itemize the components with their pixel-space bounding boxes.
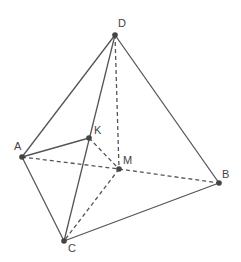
edge-AC (22, 157, 64, 241)
label-C: C (68, 242, 76, 254)
label-K: K (94, 124, 102, 136)
label-A: A (14, 140, 22, 152)
vertex-C (61, 238, 67, 244)
vertex-labels: DAKMBC (14, 17, 229, 254)
edge-MB (119, 169, 219, 183)
label-D: D (118, 17, 126, 29)
edge-AM (22, 157, 119, 169)
label-M: M (123, 154, 132, 166)
edge-DA (22, 35, 115, 157)
edge-AK (22, 138, 89, 157)
edge-KM (89, 138, 119, 169)
edge-CB (64, 183, 219, 241)
dashed-edges (22, 35, 219, 241)
solid-edges (22, 35, 219, 241)
vertex-A (19, 154, 25, 160)
tetrahedron-diagram: DAKMBC (0, 0, 241, 262)
edge-DM (115, 35, 119, 169)
label-B: B (222, 168, 229, 180)
vertex-D (112, 32, 118, 38)
vertex-K (86, 135, 92, 141)
vertex-M (116, 166, 122, 172)
vertex-B (216, 180, 222, 186)
